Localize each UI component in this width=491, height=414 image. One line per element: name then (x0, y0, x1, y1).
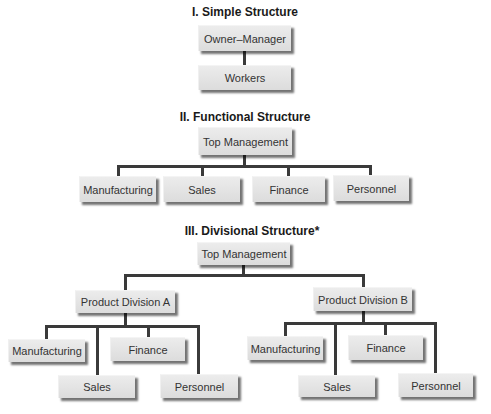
product-division-b-box: Product Division B (313, 287, 412, 311)
division-b-manufacturing-box: Manufacturing (247, 336, 323, 360)
top-management-box: Top Management (198, 127, 292, 155)
division-a-sales-box: Sales (58, 375, 135, 398)
connector-line (45, 325, 199, 328)
connector-line (362, 274, 365, 288)
connector-line (96, 325, 99, 376)
connector-line (434, 322, 437, 374)
connector-line (197, 325, 200, 375)
manufacturing-box: Manufacturing (79, 176, 156, 202)
connector-line (243, 50, 246, 66)
sales-box: Sales (163, 176, 240, 202)
division-b-sales-box: Sales (298, 375, 375, 397)
top-management-box: Top Management (197, 242, 290, 265)
divisional-structure-title: III. Divisional Structure* (185, 224, 320, 238)
product-division-a-box: Product Division A (75, 290, 175, 313)
connector-line (124, 274, 127, 291)
connector-line (284, 322, 287, 336)
connector-line (117, 165, 371, 168)
division-a-manufacturing-box: Manufacturing (8, 339, 85, 362)
owner-manager-box: Owner–Manager (198, 25, 291, 51)
connector-line (384, 322, 387, 335)
connector-line (334, 322, 337, 376)
connector-line (45, 325, 48, 339)
connector-line (124, 274, 365, 277)
simple-structure-title: I. Simple Structure (192, 5, 298, 19)
functional-structure-title: II. Functional Structure (180, 110, 311, 124)
division-b-finance-box: Finance (348, 335, 423, 360)
division-a-finance-box: Finance (110, 337, 185, 361)
personnel-box: Personnel (333, 175, 409, 201)
connector-line (284, 322, 436, 325)
finance-box: Finance (252, 176, 325, 202)
division-a-personnel-box: Personnel (160, 374, 238, 398)
workers-box: Workers (198, 65, 291, 90)
division-b-personnel-box: Personnel (398, 373, 473, 397)
